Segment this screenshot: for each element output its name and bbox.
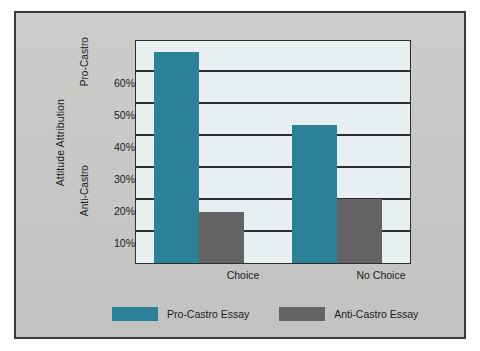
legend-item: Pro-Castro Essay [112,307,249,321]
y-axis-tick-label: 60% [114,78,135,89]
y-axis-tick-label: 20% [114,206,135,217]
legend-swatch-icon [112,307,158,321]
bar-no-choice-anti-castro-essay [337,199,382,263]
bar-no-choice-pro-castro-essay [292,125,337,263]
y-axis-tick-label: 40% [114,142,135,153]
x-axis-category-labels: ChoiceNo Choice [135,269,411,287]
y-axis-tick-labels: 10%20%30%40%50%60% [88,40,135,264]
figure-frame: Attitude Attribution Pro-Castro Anti-Cas… [14,11,466,339]
bar-choice-pro-castro-essay [154,52,199,263]
legend-label: Pro-Castro Essay [167,308,249,320]
legend-item: Anti-Castro Essay [279,307,418,321]
legend-swatch-icon [279,307,325,321]
bar-choice-anti-castro-essay [199,212,244,263]
x-axis-label-choice: Choice [227,269,260,281]
legend-label: Anti-Castro Essay [334,308,418,320]
y-axis-tick-label: 10% [114,238,135,249]
chart-legend: Pro-Castro EssayAnti-Castro Essay [112,303,432,325]
y-axis-tick-label: 50% [114,110,135,121]
y-axis-title: Attitude Attribution [54,99,66,186]
bar-series-layer [136,41,410,263]
plot-area [135,40,411,264]
x-axis-label-no-choice: No Choice [356,269,405,281]
y-axis-tick-label: 30% [114,174,135,185]
